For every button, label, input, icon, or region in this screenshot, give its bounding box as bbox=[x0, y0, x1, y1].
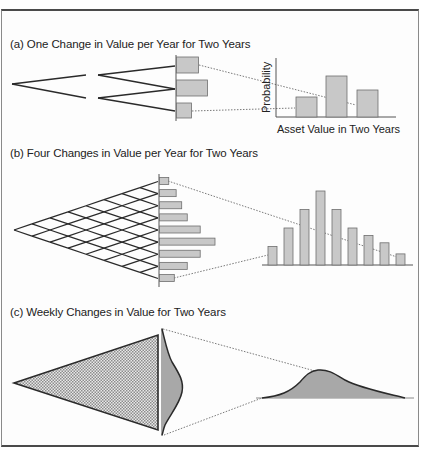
panel-b-side-histogram bbox=[160, 178, 216, 282]
panel-c-side-distribution-fill bbox=[162, 329, 183, 435]
panel-c-dense-lattice bbox=[14, 335, 158, 430]
panel-a-y-axis-label: Probability bbox=[260, 61, 272, 113]
panel-a-result-bars bbox=[296, 76, 378, 117]
panel-b-binomial-lattice bbox=[14, 182, 158, 279]
panel-a-x-axis-label: Asset Value in Two Years bbox=[277, 123, 401, 135]
panel-a-binomial-tree bbox=[12, 66, 175, 111]
panel-b-result-bars bbox=[268, 191, 405, 265]
panel-c-projection-lines bbox=[163, 329, 315, 435]
figure-diagram: Probability Asset Value in Two Years bbox=[0, 0, 422, 451]
